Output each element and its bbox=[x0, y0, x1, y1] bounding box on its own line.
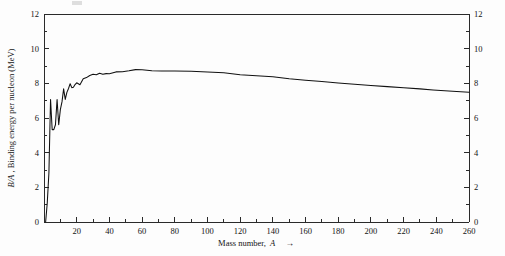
plot-frame bbox=[44, 14, 469, 222]
x-tick-label-100: 100 bbox=[201, 226, 214, 236]
y-axis-right-major-ticks bbox=[464, 14, 469, 222]
binding-energy-curve bbox=[46, 70, 469, 222]
y-right-tick-label-4: 4 bbox=[474, 148, 479, 158]
svg-text:Mass number, A: Mass number, A → bbox=[218, 238, 294, 248]
y-right-tick-label-8: 8 bbox=[474, 78, 478, 88]
y-axis-title-symbol: B/A bbox=[6, 174, 16, 188]
y-right-tick-label-10: 10 bbox=[474, 44, 483, 54]
x-axis-title-arrow: → bbox=[285, 238, 294, 248]
x-axis-title-symbol: A bbox=[269, 238, 276, 248]
x-tick-label-200: 200 bbox=[365, 226, 378, 236]
x-tick-label-160: 160 bbox=[299, 226, 312, 236]
y-right-tick-label-0: 0 bbox=[474, 217, 478, 227]
binding-energy-chart: 20406080100120140160180200220240260 0246… bbox=[0, 0, 505, 256]
y-axis-right-tick-labels: 024681012 bbox=[474, 9, 483, 227]
x-axis-tick-labels: 20406080100120140160180200220240260 bbox=[72, 226, 475, 236]
y-left-tick-label-4: 4 bbox=[35, 148, 40, 158]
y-axis-left-tick-labels: 024681012 bbox=[31, 9, 40, 227]
y-right-tick-label-6: 6 bbox=[474, 113, 478, 123]
y-left-tick-label-0: 0 bbox=[35, 217, 39, 227]
x-tick-label-140: 140 bbox=[266, 226, 279, 236]
y-left-tick-label-12: 12 bbox=[31, 9, 40, 19]
binding-energy-figure: 20406080100120140160180200220240260 0246… bbox=[0, 0, 505, 256]
svg-text:B/A , Binding energy p: B/A , Binding energy per nucleon (MeV) bbox=[6, 48, 16, 187]
x-tick-label-120: 120 bbox=[234, 226, 247, 236]
y-left-tick-label-8: 8 bbox=[35, 78, 39, 88]
x-tick-label-180: 180 bbox=[332, 226, 345, 236]
x-tick-label-60: 60 bbox=[138, 226, 147, 236]
x-axis-title-text: Mass number, bbox=[218, 238, 266, 248]
x-axis-title: Mass number, A → bbox=[218, 238, 294, 248]
y-left-tick-label-6: 6 bbox=[35, 113, 39, 123]
x-tick-label-240: 240 bbox=[430, 226, 443, 236]
y-axis-title-text: , Binding energy per nucleon (MeV) bbox=[6, 48, 16, 172]
y-left-tick-label-10: 10 bbox=[31, 44, 40, 54]
y-right-tick-label-2: 2 bbox=[474, 182, 478, 192]
x-tick-label-80: 80 bbox=[171, 226, 180, 236]
scan-artifact bbox=[72, 1, 82, 5]
x-tick-label-220: 220 bbox=[397, 226, 410, 236]
y-right-tick-label-12: 12 bbox=[474, 9, 483, 19]
y-axis-title: B/A , Binding energy per nucleon (MeV) bbox=[6, 48, 16, 187]
x-tick-label-20: 20 bbox=[72, 226, 81, 236]
x-tick-label-260: 260 bbox=[463, 226, 476, 236]
x-tick-label-40: 40 bbox=[105, 226, 114, 236]
y-left-tick-label-2: 2 bbox=[35, 182, 39, 192]
